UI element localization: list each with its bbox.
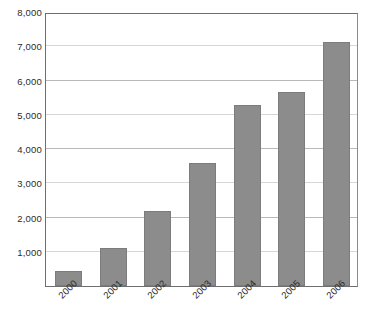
gridline [46,148,357,149]
gridline [46,45,357,46]
bar-chart: 1,0002,0003,0004,0005,0006,0007,0008,000… [0,0,369,326]
bar [278,92,305,286]
y-axis-tick-label: 5,000 [2,111,42,121]
y-axis-tick-label: 8,000 [2,8,42,18]
gridline [46,80,357,81]
y-axis-tick-label: 3,000 [2,179,42,189]
plot-area [45,13,358,287]
y-axis-tick-label: 2,000 [2,214,42,224]
y-axis-tick-label: 6,000 [2,77,42,87]
gridline [46,114,357,115]
y-axis-tick-label: 1,000 [2,248,42,258]
x-axis-tick-labels: 2000200120022003200420052006 [45,287,358,326]
y-axis-tick-label: 7,000 [2,42,42,52]
bar [323,42,350,286]
bar [189,163,216,286]
bar [144,211,171,286]
y-axis-tick-labels: 1,0002,0003,0004,0005,0006,0007,0008,000 [0,13,42,287]
bar [234,105,261,286]
y-axis-tick-label: 4,000 [2,145,42,155]
